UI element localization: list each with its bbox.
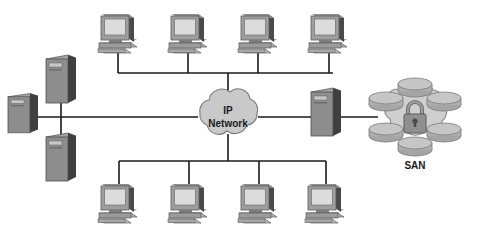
server-right-gateway[interactable] <box>311 88 341 136</box>
san-disk-lower-right <box>427 123 461 142</box>
workstation-top-3[interactable] <box>238 14 277 53</box>
san-disk-upper-left <box>369 92 403 111</box>
san-disk-top <box>398 78 432 97</box>
server-cluster-left <box>8 55 76 181</box>
server-left-edge[interactable] <box>8 93 38 132</box>
workstation-top-4[interactable] <box>308 14 347 53</box>
workstation-top-2[interactable] <box>168 14 207 53</box>
server-left-lower[interactable] <box>46 133 76 181</box>
san-disk-bottom <box>398 137 432 156</box>
workstation-bottom-2[interactable] <box>168 184 207 223</box>
workstation-bottom-1[interactable] <box>98 184 137 223</box>
workstation-top-1[interactable] <box>98 14 137 53</box>
workstation-bottom-3[interactable] <box>238 184 277 223</box>
san-disk-lower-left <box>369 123 403 142</box>
workstation-row-top <box>98 14 347 53</box>
san-label: SAN <box>404 160 425 171</box>
ip-network-cloud[interactable]: IP Network <box>200 89 258 135</box>
network-topology-diagram: IP Network SAN <box>0 0 479 233</box>
workstation-bottom-4[interactable] <box>305 184 344 223</box>
cloud-label-line1: IP <box>223 105 233 116</box>
diagram-canvas: IP Network SAN <box>0 0 479 233</box>
san-disk-upper-right <box>427 92 461 111</box>
server-left-upper[interactable] <box>46 55 76 103</box>
workstation-row-bottom <box>98 184 344 223</box>
san-storage[interactable]: SAN <box>369 78 461 171</box>
cloud-label-line2: Network <box>208 118 248 129</box>
